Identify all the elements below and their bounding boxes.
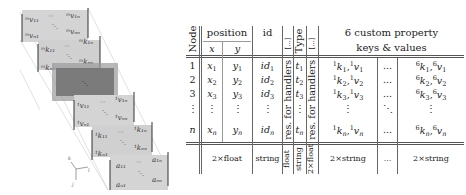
svg-text:¹k₁ₙ: ¹k₁ₙ [134,126,147,134]
row1-y: y1 [223,61,252,73]
axes-icon [71,162,88,180]
header-type: Type [294,27,304,55]
row2-x: x2 [202,75,222,87]
svg-text:l: l [88,167,90,173]
rown-y: yn [223,125,252,137]
svg-text:¹v₁ₙ: ¹v₁ₙ [115,96,128,104]
svg-text:a₁₁: a₁₁ [116,162,126,170]
type-position: 2×float [202,155,252,163]
svg-text:⋱: ⋱ [102,108,108,115]
row3-type: t3 [293,89,306,101]
svg-text:···: ··· [64,42,70,49]
row2-k6: 6k2,6v2 [398,75,464,88]
svg-text:¹v₁₁: ¹v₁₁ [77,102,90,110]
svg-text:¹vₙ₁: ¹vₙ₁ [77,120,90,128]
header-position: position [202,28,252,38]
svg-text:aₙ₁: aₙ₁ [116,181,126,189]
row2-type: t2 [293,75,306,87]
header-id: id [253,28,282,38]
node-rule-a [199,26,200,174]
header-x: x [202,44,222,54]
header-rule-top [186,55,464,56]
svg-text:aₙₙ: aₙₙ [152,176,162,184]
row1-node: 1 [186,61,199,71]
row1-dots: ... [378,61,397,71]
header-custom-line1: 6 custom property [319,28,464,38]
svg-text:ᵐvₙₙ: ᵐvₙₙ [66,28,80,36]
row3-id: id3 [253,89,282,101]
svg-text:···: ··· [118,128,124,135]
rown-node: n [186,125,199,135]
svg-text:ᵐk₁ₙ: ᵐk₁ₙ [79,38,93,46]
svg-text:ᵐvₙ₁: ᵐvₙ₁ [25,32,39,40]
svg-text:⋱: ⋱ [138,169,144,176]
svg-text:k: k [68,155,71,161]
svg-text:j: j [71,181,74,188]
rowdots-type: ⋮ [293,104,306,114]
svg-text:···: ··· [136,158,142,165]
svg-text:¹kₙₙ: ¹kₙₙ [134,144,147,152]
svg-text:¹vₙₙ: ¹vₙₙ [115,114,128,122]
svg-text:ᵐv₁ₙ: ᵐv₁ₙ [66,12,80,20]
rown-type: tn [293,125,306,137]
rown-k6: 6kn,6vn [398,125,464,138]
row2-dots: ... [378,75,397,85]
layer-a: a₁₁ a₁ₙ aₙ₁ aₙₙ ··· ⋱ [110,152,168,190]
svg-text:···: ··· [48,12,54,19]
layer-m-v: ᵐv₁₁ ᵐv₁ₙ ᵐvₙ₁ ᵐvₙₙ ··· ⋱ [22,8,88,42]
res2-label: res. for handlers [307,59,317,141]
row1-type: t1 [293,61,306,73]
row2-y: y2 [223,75,252,87]
rowdots-k1: ⋮ [319,104,377,114]
svg-text:ᵐv₁₁: ᵐv₁₁ [25,16,39,24]
svg-text:⋱: ⋱ [66,52,72,59]
row1-k1: 1k1,1v1 [319,61,377,74]
rown-k1: 1kn,1vn [319,125,377,138]
row3-k6: 6k3,6v3 [398,89,464,102]
svg-text:¹kₙ₁: ¹kₙ₁ [95,150,108,158]
body-rule-top [186,142,464,143]
header-y: y [223,44,252,54]
rown-id: idn [253,125,282,137]
row2-k1: 1k2,1v2 [319,75,377,88]
layer-1-v: ¹v₁₁ ¹v₁ₙ ¹vₙ₁ ¹vₙₙ ··· ⋱ [74,92,134,130]
rowdots-x: ⋮ [202,104,222,114]
position-sub-rule [203,41,251,42]
svg-text:⋱: ⋱ [82,79,88,86]
type-res1: float [283,144,291,174]
rowdots-id: ⋮ [253,104,282,114]
header-node: Node [188,23,198,55]
svg-text:¹k₁₁: ¹k₁₁ [95,132,108,140]
header-custom-line2: keys & values [319,43,464,53]
body-rule-bottom [186,144,464,145]
rown-dots: ... [378,125,397,135]
layer-stack-illustration: ᵐv₁₁ ᵐv₁ₙ ᵐvₙ₁ ᵐvₙₙ ··· ⋱ ᵐk₁₁ ᵐk₁ₙ ᵐkₙ₁… [0,0,170,195]
row1-x: x1 [202,61,222,73]
rowdots-dots: ⋱ [378,104,397,114]
type-dots: ... [378,155,397,163]
row3-y: y3 [223,89,252,101]
type-k1: 2×string [319,155,377,163]
row1-id: id1 [253,61,282,73]
rowdots-k6: ⋮ [398,104,464,114]
header-rule-bottom [186,57,464,58]
row2-id: id2 [253,75,282,87]
header-res1: [...] [285,30,292,58]
type-res2: 2×float [307,142,315,176]
rowdots-node: ⋮ [186,104,199,114]
row3-node: 3 [186,89,199,99]
row3-dots: ... [378,89,397,99]
rown-x: xn [202,125,222,137]
row3-k1: 1k3,1v3 [319,89,377,102]
svg-text:a₁ₙ: a₁ₙ [152,156,162,164]
row3-x: x3 [202,89,222,101]
svg-text:ᵐk₁₁: ᵐk₁₁ [41,46,55,54]
row2-node: 2 [186,75,199,85]
rowdots-y: ⋮ [223,104,252,114]
node-data-table: Node position x y id [...] Type [...] 6 … [186,0,466,195]
header-res2: [...] [309,30,316,58]
type-type: string [295,144,303,174]
svg-text:⋱: ⋱ [52,22,58,29]
svg-text:···: ··· [100,98,106,105]
svg-text:⋱: ⋱ [120,138,126,145]
